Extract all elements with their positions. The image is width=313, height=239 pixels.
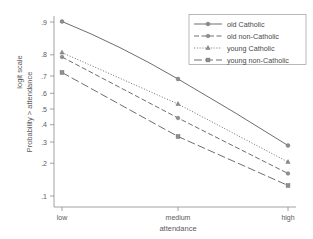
data-point-marker bbox=[176, 116, 180, 120]
y-axis-ticks: .9 .8 .7 .6 .5 .4 .3 .2 .1 bbox=[41, 19, 54, 200]
x-axis-ticks: low medium high bbox=[57, 207, 295, 222]
y-tick-label: .5 bbox=[41, 106, 47, 113]
series-young-non-catholic bbox=[60, 71, 290, 188]
legend-label: young non-Catholic bbox=[227, 56, 289, 65]
data-point-marker bbox=[60, 20, 64, 24]
legend-marker-circle bbox=[206, 22, 210, 26]
x-tick-label-high: high bbox=[281, 214, 294, 222]
data-point-marker bbox=[60, 55, 64, 59]
x-tick-label-low: low bbox=[57, 214, 68, 221]
legend-label: young Catholic bbox=[227, 44, 275, 53]
y-tick-label: .6 bbox=[41, 90, 47, 97]
y-axis-title: Probability > attendance bbox=[25, 72, 34, 153]
data-point-marker bbox=[176, 102, 180, 106]
y-tick-label: .4 bbox=[41, 121, 47, 128]
y-tick-label: .9 bbox=[41, 19, 47, 26]
series-line-young-catholic bbox=[62, 53, 288, 162]
x-axis-title: attendance bbox=[159, 224, 196, 233]
data-point-marker bbox=[286, 184, 290, 188]
y-tick-label: .8 bbox=[41, 51, 47, 58]
legend-marker-circle bbox=[206, 34, 210, 38]
data-point-marker bbox=[176, 77, 180, 81]
y-axis-secondary-title: logit scale bbox=[15, 55, 24, 88]
series-old-non-catholic bbox=[60, 55, 290, 175]
logit-scale-line-chart: .9 .8 .7 .6 .5 .4 .3 .2 .1 low medium bbox=[0, 0, 313, 239]
series-line-old-non-catholic bbox=[62, 57, 288, 174]
y-tick-label: .7 bbox=[41, 73, 47, 80]
legend-label: old Catholic bbox=[227, 20, 265, 29]
series-young-catholic bbox=[60, 50, 290, 163]
x-tick-label-medium: medium bbox=[166, 214, 191, 221]
chart-legend: old Catholic old non-Catholic young Cath… bbox=[189, 15, 306, 65]
y-tick-label: .1 bbox=[41, 193, 47, 200]
data-point-marker bbox=[176, 135, 180, 139]
data-point-marker bbox=[286, 144, 290, 148]
y-tick-label: .3 bbox=[41, 139, 47, 146]
y-tick-label: .2 bbox=[41, 160, 47, 167]
data-point-marker bbox=[286, 172, 290, 176]
legend-label: old non-Catholic bbox=[227, 32, 279, 41]
legend-marker-square bbox=[206, 58, 210, 62]
data-point-marker bbox=[60, 50, 64, 54]
chart-container: .9 .8 .7 .6 .5 .4 .3 .2 .1 low medium bbox=[0, 0, 313, 239]
series-line-young-non-catholic bbox=[62, 73, 288, 186]
data-point-marker bbox=[60, 71, 64, 75]
